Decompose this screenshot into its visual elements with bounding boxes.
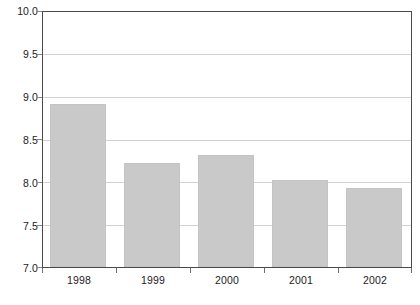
y-tick-label-8-0: 8.0 <box>4 178 38 188</box>
x-tick-mark-2 <box>190 268 191 273</box>
bar-1999 <box>124 163 180 267</box>
y-tick-label-10-0: 10.0 <box>4 6 38 16</box>
y-tick-label-9-0: 9.0 <box>4 92 38 102</box>
x-tick-label-2002: 2002 <box>338 274 412 286</box>
bar-2000 <box>198 155 254 267</box>
x-tick-label-2001: 2001 <box>264 274 338 286</box>
x-tick-mark-1 <box>116 268 117 273</box>
bar-chart: 10.0 9.5 9.0 8.5 8.0 7.5 7.0 1 <box>0 0 420 305</box>
bar-2002 <box>346 188 402 267</box>
y-tick-label-9-5: 9.5 <box>4 49 38 59</box>
plot-area <box>42 11 412 268</box>
y-axis: 10.0 9.5 9.0 8.5 8.0 7.5 7.0 <box>0 0 38 305</box>
x-tick-mark-left <box>42 268 43 273</box>
bar-2001 <box>272 180 328 267</box>
y-tick-label-7-0: 7.0 <box>4 263 38 273</box>
x-tick-label-1999: 1999 <box>116 274 190 286</box>
y-tick-label-8-5: 8.5 <box>4 135 38 145</box>
x-axis: 1998 1999 2000 2001 2002 <box>42 274 412 294</box>
x-tick-label-1998: 1998 <box>42 274 116 286</box>
x-tick-label-2000: 2000 <box>190 274 264 286</box>
bars-layer <box>43 12 411 267</box>
x-tick-mark-3 <box>264 268 265 273</box>
x-tick-mark-right <box>411 268 412 273</box>
y-tick-label-7-5: 7.5 <box>4 221 38 231</box>
bar-1998 <box>50 104 106 267</box>
x-tick-mark-4 <box>338 268 339 273</box>
